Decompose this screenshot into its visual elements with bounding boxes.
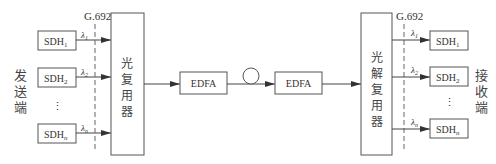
svg-text:SDH2: SDH2 xyxy=(436,72,460,85)
lambda-n-right: λn xyxy=(410,117,418,128)
svg-text:器: 器 xyxy=(121,105,133,119)
optical-multiplexer: 光 复 用 器 xyxy=(111,13,144,155)
svg-text:SDH1: SDH1 xyxy=(436,36,460,49)
svg-text:SDH1: SDH1 xyxy=(44,36,68,49)
optical-demultiplexer: 光 解 复 用 器 xyxy=(361,13,392,155)
sdh-source-2: SDH2 xyxy=(38,68,76,87)
lambda-2-right: λ2 xyxy=(410,65,418,76)
svg-text:SDHn: SDHn xyxy=(436,124,460,137)
sdh-source-1: SDH1 xyxy=(38,31,76,50)
ellipsis-right: ⋮ xyxy=(444,96,455,108)
svg-text:收: 收 xyxy=(475,84,488,99)
svg-text:发: 发 xyxy=(14,68,27,83)
svg-text:光: 光 xyxy=(121,57,133,71)
fiber-loop-icon xyxy=(243,68,259,84)
lambda-1-right: λ1 xyxy=(410,28,418,39)
wdm-system-diagram: 发 送 端 G.692 SDH1 SDH2 ⋮ SDHn λ1 λ2 λn 光 … xyxy=(0,0,496,164)
g692-label-left: G.692 xyxy=(84,10,111,22)
svg-text:复: 复 xyxy=(371,83,383,97)
sdh-sink-1: SDH1 xyxy=(430,31,468,50)
svg-text:送: 送 xyxy=(14,84,27,99)
transmit-end-label: 发 送 端 xyxy=(14,68,27,115)
svg-text:EDFA: EDFA xyxy=(286,78,312,89)
svg-text:用: 用 xyxy=(371,99,383,113)
g692-label-right: G.692 xyxy=(396,10,423,22)
edfa-amplifier-1: EDFA xyxy=(180,72,227,94)
ellipsis-left: ⋮ xyxy=(52,100,63,112)
svg-text:器: 器 xyxy=(371,115,383,129)
lambda-2-left: λ2 xyxy=(80,67,88,78)
sdh-sink-n: SDHn xyxy=(430,119,468,138)
svg-text:复: 复 xyxy=(121,73,133,87)
svg-text:解: 解 xyxy=(371,67,383,81)
svg-text:SDHn: SDHn xyxy=(44,129,68,142)
svg-text:端: 端 xyxy=(475,100,488,115)
svg-text:SDH2: SDH2 xyxy=(44,73,68,86)
lambda-n-left: λn xyxy=(80,123,88,134)
sdh-source-n: SDHn xyxy=(38,124,76,143)
lambda-1-left: λ1 xyxy=(80,30,88,41)
receive-end-label: 接 收 端 xyxy=(475,68,488,115)
sdh-sink-2: SDH2 xyxy=(430,67,468,86)
svg-text:EDFA: EDFA xyxy=(191,78,217,89)
svg-text:接: 接 xyxy=(475,68,488,83)
svg-text:用: 用 xyxy=(121,89,133,103)
edfa-amplifier-2: EDFA xyxy=(275,72,322,94)
svg-text:端: 端 xyxy=(14,100,27,115)
svg-text:光: 光 xyxy=(371,51,383,65)
